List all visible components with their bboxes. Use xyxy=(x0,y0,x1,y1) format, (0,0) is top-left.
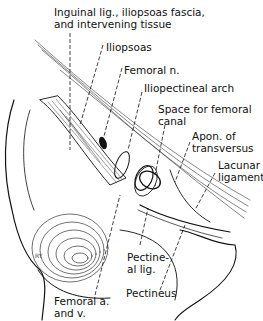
label-iliopectineal-arch: Iliopectineal arch xyxy=(144,82,234,94)
label-line: al lig. xyxy=(127,263,169,275)
artist-signature: RY xyxy=(35,252,42,259)
label-line: ligament xyxy=(218,171,263,183)
femoral-nerve xyxy=(98,136,108,149)
label-pectineus: Pectineus xyxy=(126,287,176,299)
label-iliopsoas: Iliopsoas xyxy=(106,41,152,53)
label-line: transversus xyxy=(192,142,254,154)
hip-bone-inner-contour xyxy=(24,110,34,210)
label-line: and v. xyxy=(54,307,109,319)
label-line: Lacunar xyxy=(218,159,263,171)
label-line: and intervening tissue xyxy=(54,18,205,30)
label-line: canal xyxy=(158,115,252,127)
label-line: Pectine- xyxy=(127,251,169,263)
label-femoral-nerve: Femoral n. xyxy=(124,64,180,76)
label-pectineal-ligament: Pectine- al lig. xyxy=(127,251,169,275)
label-line: Apon. of xyxy=(192,130,254,142)
label-line: Pectineus xyxy=(126,287,176,299)
acetabulum xyxy=(32,214,108,282)
label-inguinal-ligament: Inguinal lig., iliopsoas fascia, and int… xyxy=(54,6,205,30)
label-line: Inguinal lig., iliopsoas fascia, xyxy=(54,6,205,18)
label-lacunar-ligament: Lacunar ligament xyxy=(218,159,263,183)
label-line: Iliopsoas xyxy=(106,41,152,53)
label-line: Femoral n. xyxy=(124,64,180,76)
lacunar-ligament xyxy=(170,170,210,222)
label-line: Space for femoral xyxy=(158,103,252,115)
label-line: Iliopectineal arch xyxy=(144,82,234,94)
label-space-femoral-canal: Space for femoral canal xyxy=(158,103,252,127)
pectineal-ligament xyxy=(138,210,222,238)
pubic-bone-outline xyxy=(175,230,236,320)
label-line: Femoral a. xyxy=(54,295,109,307)
label-femoral-artery-vein: Femoral a. and v. xyxy=(54,295,109,319)
label-apon-transversus: Apon. of transversus xyxy=(192,130,254,154)
